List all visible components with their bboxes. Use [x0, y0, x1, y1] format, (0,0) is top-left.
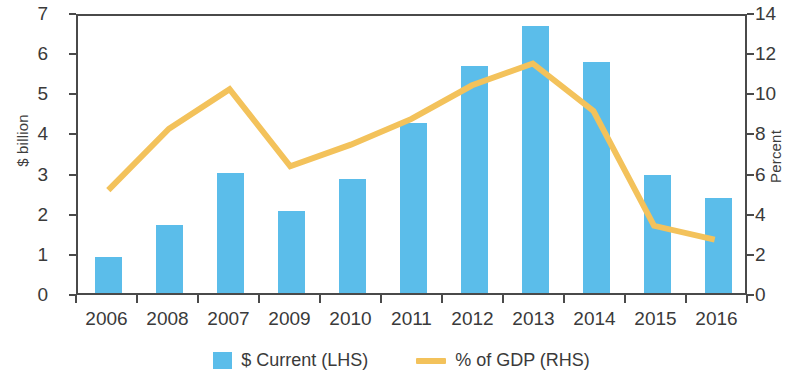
x-tick-mark [197, 295, 199, 303]
right-tick-mark [747, 294, 754, 296]
right-tick-mark [747, 254, 754, 256]
right-tick-label: 8 [755, 124, 789, 143]
x-axis-category-label: 2006 [76, 308, 137, 330]
x-axis-category-label: 2009 [259, 308, 320, 330]
right-tick-label: 14 [755, 4, 789, 23]
right-tick-label: 12 [755, 44, 789, 63]
left-tick-mark [69, 133, 76, 135]
left-tick-label: 1 [18, 245, 48, 264]
legend-label-bar: $ Current (LHS) [241, 350, 368, 371]
left-tick-mark [69, 254, 76, 256]
legend-label-line: % of GDP (RHS) [455, 350, 590, 371]
right-tick-mark [747, 174, 754, 176]
right-tick-label: 6 [755, 165, 789, 184]
legend-item-line[interactable]: % of GDP (RHS) [416, 350, 590, 371]
x-tick-mark [136, 295, 138, 303]
right-tick-label: 10 [755, 84, 789, 103]
left-tick-mark [69, 214, 76, 216]
x-tick-mark [319, 295, 321, 303]
left-tick-mark [69, 93, 76, 95]
right-tick-mark [747, 93, 754, 95]
x-axis-category-label: 2016 [686, 308, 747, 330]
x-axis-category-label: 2013 [503, 308, 564, 330]
x-tick-mark [380, 295, 382, 303]
left-tick-label: 3 [18, 165, 48, 184]
left-tick-label: 2 [18, 205, 48, 224]
x-tick-mark [502, 295, 504, 303]
x-axis-category-label: 2008 [137, 308, 198, 330]
x-axis-category-label: 2010 [320, 308, 381, 330]
left-tick-label: 6 [18, 44, 48, 63]
legend-line-swatch-icon [416, 358, 446, 364]
x-tick-mark [624, 295, 626, 303]
legend-item-bar[interactable]: $ Current (LHS) [213, 350, 368, 371]
legend-bar-swatch-icon [213, 352, 232, 369]
x-axis-category-label: 2011 [381, 308, 442, 330]
gdp-line-path [108, 64, 714, 240]
right-axis-tick-labels: 02468101214 [755, 0, 789, 379]
right-tick-mark [747, 214, 754, 216]
x-axis-category-label: 2007 [198, 308, 259, 330]
x-axis-category-label: 2012 [442, 308, 503, 330]
x-tick-mark [258, 295, 260, 303]
right-tick-label: 0 [755, 285, 789, 304]
left-tick-mark [69, 13, 76, 15]
right-tick-mark [747, 133, 754, 135]
x-tick-mark [441, 295, 443, 303]
right-tick-label: 2 [755, 245, 789, 264]
left-axis-tick-labels: 01234567 [18, 0, 48, 379]
left-tick-mark [69, 53, 76, 55]
x-axis-category-label: 2014 [564, 308, 625, 330]
right-tick-label: 4 [755, 205, 789, 224]
plot-area [76, 14, 747, 295]
x-tick-mark [746, 295, 748, 303]
left-tick-label: 7 [18, 4, 48, 23]
chart-legend: $ Current (LHS) % of GDP (RHS) [0, 350, 803, 371]
line-series-layer [78, 16, 745, 293]
left-tick-mark [69, 174, 76, 176]
x-axis-category-label: 2015 [625, 308, 686, 330]
left-tick-label: 5 [18, 84, 48, 103]
dual-axis-chart: $ billion Percent 01234567 02468101214 2… [0, 0, 803, 379]
left-tick-label: 0 [18, 285, 48, 304]
x-tick-mark [75, 295, 77, 303]
x-tick-mark [685, 295, 687, 303]
left-tick-label: 4 [18, 124, 48, 143]
right-tick-mark [747, 53, 754, 55]
x-tick-mark [563, 295, 565, 303]
right-tick-mark [747, 13, 754, 15]
